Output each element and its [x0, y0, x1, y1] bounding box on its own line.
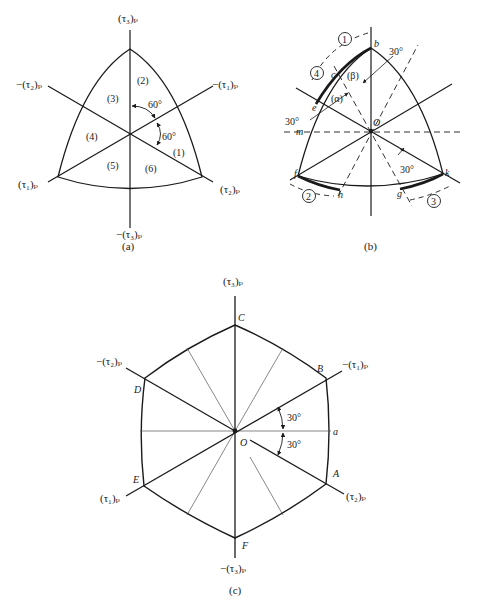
- tau1-axis: [126, 371, 342, 496]
- vertex-D: D: [133, 384, 142, 395]
- leader-30-top: [363, 56, 393, 83]
- axis-label-tau1-neg: −(τ₁)ₚ: [212, 78, 239, 91]
- axis-label-tau3-pos: (τ₃)ₚ: [223, 275, 244, 288]
- axis-upper-left-to-k: [296, 88, 460, 183]
- origin-point: [369, 129, 373, 133]
- axis-label-tau1-pos: (τ₁)ₚ: [18, 178, 39, 191]
- region-3: (3): [107, 93, 119, 105]
- thick-segment-g-k: [400, 174, 443, 189]
- panel-a-caption: (a): [122, 240, 135, 253]
- axis-label-tau3-neg: −(τ₃)ₚ: [220, 562, 247, 575]
- point-e: e: [312, 102, 317, 113]
- origin-point: [233, 429, 238, 434]
- point-k: k: [445, 167, 450, 178]
- vertex-B: B: [317, 363, 323, 374]
- axis-label-tau2-pos: (τ₂)ₚ: [220, 183, 241, 196]
- path-label-4: 4: [314, 68, 319, 79]
- path-label-2: 2: [306, 191, 311, 202]
- panel-b-caption: (b): [364, 240, 377, 253]
- figure-canvas: (τ₃)ₚ −(τ₃)ₚ −(τ₂)ₚ −(τ₁)ₚ (τ₁)ₚ (τ₂)ₚ (…: [0, 0, 477, 612]
- panel-a: (τ₃)ₚ −(τ₃)ₚ −(τ₂)ₚ −(τ₁)ₚ (τ₁)ₚ (τ₂)ₚ (…: [16, 12, 241, 253]
- vertex-E: E: [132, 474, 139, 485]
- path-label-1: 1: [342, 34, 347, 45]
- vertex-F: F: [241, 540, 249, 551]
- axis-label-tau2-neg: −(τ₂)ₚ: [96, 355, 123, 368]
- region-2: (2): [137, 75, 149, 87]
- point-b: b: [374, 38, 379, 49]
- point-h: h: [338, 189, 343, 200]
- vertex-C: C: [238, 312, 245, 323]
- angle-label-60-upper: 60°: [148, 99, 162, 110]
- region-1: (1): [173, 147, 185, 159]
- angle-arc-30-lower: [278, 433, 283, 455]
- region-beta: (β): [347, 70, 359, 82]
- point-O: O: [240, 437, 247, 448]
- region-4: (4): [86, 131, 98, 143]
- region-6: (6): [145, 163, 157, 175]
- angle-label-30-lower: 30°: [287, 439, 301, 450]
- angle-arc-60-lower: [157, 123, 161, 145]
- angle-label-30-left: 30°: [285, 116, 299, 127]
- path-label-3: 3: [431, 196, 436, 207]
- point-g: g: [397, 188, 402, 199]
- angle-arc-30-upper: [278, 407, 283, 429]
- region-5: (5): [107, 160, 119, 172]
- axis-label-tau2-neg: −(τ₂)ₚ: [16, 78, 43, 91]
- point-m: m: [296, 126, 303, 137]
- vertex-A: A: [332, 468, 340, 479]
- point-f: f: [294, 168, 298, 179]
- axis-label-tau2-pos: (τ₂)ₚ: [346, 490, 367, 503]
- thick-segment-b-e: [316, 48, 371, 104]
- angle-label-30-upper: 30°: [287, 412, 301, 423]
- region-alpha: (α): [331, 93, 343, 105]
- axis-label-tau1-pos: (τ₁)ₚ: [100, 492, 121, 505]
- angle-label-60-lower: 60°: [162, 131, 176, 142]
- angle-label-30-bottom: 30°: [400, 164, 414, 175]
- angle-label-30-top: 30°: [389, 46, 403, 57]
- point-a: a: [333, 426, 338, 437]
- panel-c-caption: (c): [229, 584, 242, 597]
- point-c: c: [331, 69, 336, 80]
- panel-c: (τ₃)ₚ −(τ₃)ₚ −(τ₂)ₚ −(τ₁)ₚ (τ₁)ₚ (τ₂)ₚ A…: [96, 275, 369, 597]
- panel-b: 1 2 3 4 b c e m f h g k O (α) (β) 30° 30…: [284, 27, 462, 253]
- axis-label-tau3-pos: (τ₃)ₚ: [118, 12, 139, 25]
- axis-label-tau1-neg: −(τ₁)ₚ: [342, 358, 369, 371]
- point-O: O: [373, 117, 380, 128]
